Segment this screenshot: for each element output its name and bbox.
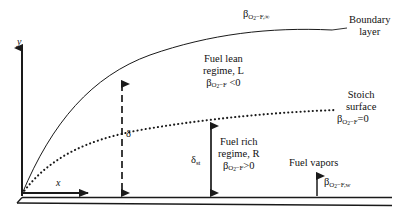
beta-subscript: O2−F <box>342 118 357 125</box>
wall-beta-label: βO2−F,w <box>324 176 350 189</box>
boundary-layer-label-line1: Boundary <box>349 14 390 26</box>
fuel-lean-line1: Fuel lean <box>203 53 244 65</box>
plate-bottom-surface <box>17 203 392 206</box>
stoich-surface-curve <box>22 110 336 194</box>
fuel-rich-beta-expression: βO2−F>0 <box>218 160 259 173</box>
stoich-relation: =0 <box>357 113 368 124</box>
stoich-surface-line2: surface <box>346 101 376 113</box>
boundary-layer-leader-line <box>332 28 347 30</box>
boundary-layer-label-line2: layer <box>349 26 390 38</box>
plate-leading-edge <box>17 198 22 204</box>
fuel-lean-relation: <0 <box>227 77 241 88</box>
fuel-vapors-label: Fuel vapors <box>289 157 338 169</box>
stoich-surface-line1: Stoich <box>346 89 376 101</box>
delta-st-label: δst <box>191 154 200 167</box>
freestream-beta-label: βO2−F,∞ <box>243 8 269 21</box>
boundary-layer-curve <box>22 29 332 194</box>
beta-subscript: O2−F,w <box>329 181 350 188</box>
stoich-beta-zero-label: βO2−F=0 <box>337 113 369 126</box>
x-axis-label: x <box>56 177 60 188</box>
fuel-rich-line2: regime, R <box>218 148 259 160</box>
fuel-lean-beta-expression: βO2−F <0 <box>203 77 244 90</box>
beta-subscript: O2−F <box>212 81 227 88</box>
stoich-surface-label: Stoich surface <box>346 89 376 113</box>
fuel-lean-regime-label: Fuel lean regime, L βO2−F <0 <box>203 53 244 90</box>
fuel-rich-regime-label: Fuel rich regime, R βO2−F>0 <box>218 136 259 173</box>
delta-label: δ <box>126 128 131 140</box>
beta-subscript: O2−F <box>228 164 243 171</box>
boundary-layer-diagram: y x βO2−F,∞ Boundary layer Fuel lean reg… <box>0 0 403 222</box>
beta-subscript: O2−F,∞ <box>248 13 269 20</box>
fuel-rich-line1: Fuel rich <box>218 136 259 148</box>
y-axis-label: y <box>17 36 21 47</box>
fuel-rich-relation: >0 <box>243 160 254 171</box>
delta-st-subscript: st <box>196 159 200 166</box>
fuel-lean-line2: regime, L <box>203 65 244 77</box>
boundary-layer-label: Boundary layer <box>349 14 390 38</box>
